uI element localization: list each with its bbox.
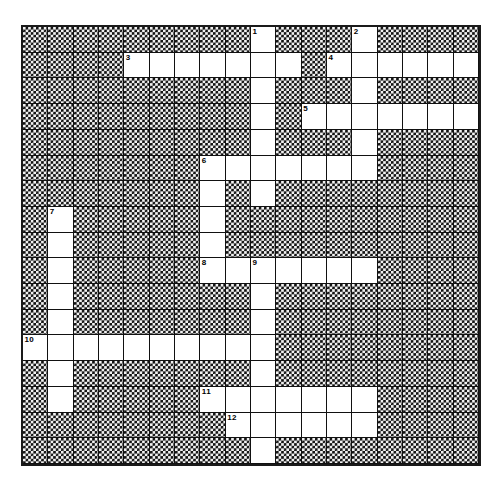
crossword-cell-open[interactable] (302, 156, 327, 182)
crossword-grid[interactable]: 123456789101112 (23, 27, 479, 464)
crossword-cell-open[interactable] (428, 104, 453, 130)
crossword-cell-open[interactable] (378, 53, 403, 79)
crossword-cell-open[interactable] (378, 104, 403, 130)
crossword-cell-open[interactable] (74, 335, 99, 361)
crossword-cell-open[interactable] (48, 284, 73, 310)
crossword-cell-open[interactable] (352, 413, 377, 439)
crossword-cell-open[interactable] (226, 53, 251, 79)
crossword-cell-numbered-11[interactable]: 11 (200, 387, 225, 413)
crossword-cell-open[interactable] (276, 413, 301, 439)
crossword-cell-open[interactable] (302, 413, 327, 439)
crossword-cell-open[interactable] (48, 387, 73, 413)
crossword-cell-open[interactable] (251, 335, 276, 361)
crossword-cell-open[interactable] (251, 104, 276, 130)
crossword-cell-open[interactable] (327, 258, 352, 284)
crossword-cell-blocked (175, 438, 200, 464)
crossword-cell-blocked (23, 27, 48, 53)
crossword-cell-open[interactable] (352, 104, 377, 130)
crossword-cell-blocked (23, 207, 48, 233)
crossword-cell-blocked (99, 258, 124, 284)
crossword-cell-open[interactable] (276, 258, 301, 284)
crossword-cell-numbered-6[interactable]: 6 (200, 156, 225, 182)
crossword-cell-blocked (150, 361, 175, 387)
crossword-cell-blocked (74, 387, 99, 413)
crossword-cell-open[interactable] (276, 387, 301, 413)
crossword-cell-open[interactable] (48, 310, 73, 336)
crossword-cell-open[interactable] (251, 284, 276, 310)
crossword-cell-open[interactable] (48, 233, 73, 259)
crossword-cell-numbered-8[interactable]: 8 (200, 258, 225, 284)
crossword-cell-numbered-12[interactable]: 12 (226, 413, 251, 439)
crossword-cell-blocked (378, 335, 403, 361)
crossword-cell-open[interactable] (251, 413, 276, 439)
crossword-cell-open[interactable] (200, 181, 225, 207)
crossword-cell-open[interactable] (251, 181, 276, 207)
crossword-cell-numbered-9[interactable]: 9 (251, 258, 276, 284)
crossword-cell-blocked (175, 233, 200, 259)
crossword-cell-open[interactable] (226, 387, 251, 413)
crossword-cell-open[interactable] (352, 53, 377, 79)
crossword-cell-blocked (124, 387, 149, 413)
crossword-cell-blocked (74, 181, 99, 207)
crossword-cell-open[interactable] (352, 258, 377, 284)
crossword-cell-open[interactable] (150, 53, 175, 79)
crossword-cell-open[interactable] (99, 335, 124, 361)
crossword-cell-open[interactable] (454, 104, 479, 130)
crossword-cell-open[interactable] (200, 233, 225, 259)
crossword-cell-open[interactable] (302, 387, 327, 413)
crossword-cell-open[interactable] (327, 413, 352, 439)
crossword-cell-numbered-2[interactable]: 2 (352, 27, 377, 53)
crossword-cell-blocked (403, 284, 428, 310)
crossword-cell-open[interactable] (48, 258, 73, 284)
crossword-cell-open[interactable] (200, 207, 225, 233)
crossword-cell-numbered-3[interactable]: 3 (124, 53, 149, 79)
crossword-cell-open[interactable] (124, 335, 149, 361)
crossword-cell-open[interactable] (200, 53, 225, 79)
crossword-cell-open[interactable] (352, 387, 377, 413)
crossword-cell-open[interactable] (251, 78, 276, 104)
crossword-cell-numbered-7[interactable]: 7 (48, 207, 73, 233)
crossword-cell-open[interactable] (403, 53, 428, 79)
crossword-cell-open[interactable] (352, 78, 377, 104)
crossword-cell-open[interactable] (251, 310, 276, 336)
crossword-cell-blocked (124, 413, 149, 439)
crossword-cell-open[interactable] (251, 130, 276, 156)
crossword-cell-blocked (428, 27, 453, 53)
crossword-cell-open[interactable] (428, 53, 453, 79)
crossword-cell-open[interactable] (251, 387, 276, 413)
crossword-cell-blocked (327, 284, 352, 310)
crossword-cell-open[interactable] (251, 438, 276, 464)
crossword-cell-open[interactable] (327, 156, 352, 182)
crossword-cell-open[interactable] (251, 53, 276, 79)
crossword-cell-open[interactable] (150, 335, 175, 361)
crossword-cell-open[interactable] (352, 156, 377, 182)
crossword-cell-open[interactable] (226, 335, 251, 361)
clue-number-12: 12 (227, 413, 237, 423)
crossword-cell-open[interactable] (302, 258, 327, 284)
crossword-cell-open[interactable] (276, 156, 301, 182)
crossword-cell-open[interactable] (251, 156, 276, 182)
crossword-cell-numbered-5[interactable]: 5 (302, 104, 327, 130)
crossword-cell-open[interactable] (200, 335, 225, 361)
crossword-cell-numbered-4[interactable]: 4 (327, 53, 352, 79)
crossword-cell-open[interactable] (352, 130, 377, 156)
crossword-cell-open[interactable] (276, 53, 301, 79)
crossword-cell-open[interactable] (403, 104, 428, 130)
crossword-cell-blocked (175, 130, 200, 156)
crossword-cell-blocked (23, 284, 48, 310)
crossword-cell-open[interactable] (327, 104, 352, 130)
crossword-cell-open[interactable] (327, 387, 352, 413)
crossword-cell-open[interactable] (454, 53, 479, 79)
crossword-cell-open[interactable] (175, 53, 200, 79)
crossword-cell-numbered-1[interactable]: 1 (251, 27, 276, 53)
crossword-cell-blocked (327, 181, 352, 207)
crossword-cell-open[interactable] (226, 156, 251, 182)
crossword-cell-blocked (403, 387, 428, 413)
crossword-cell-open[interactable] (48, 361, 73, 387)
crossword-cell-open[interactable] (226, 258, 251, 284)
crossword-cell-numbered-10[interactable]: 10 (23, 335, 48, 361)
crossword-cell-open[interactable] (175, 335, 200, 361)
crossword-cell-open[interactable] (48, 335, 73, 361)
crossword-cell-open[interactable] (251, 361, 276, 387)
crossword-cell-blocked (352, 361, 377, 387)
